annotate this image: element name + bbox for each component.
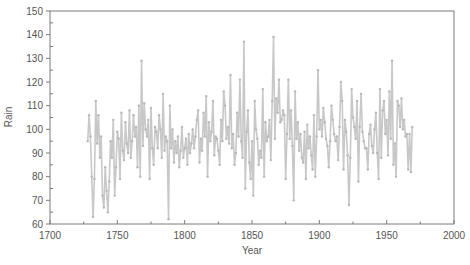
data-point-marker [115,166,117,168]
data-point-marker [99,157,101,159]
data-point-marker [131,140,133,142]
data-point-marker [325,138,327,140]
data-point-marker [352,116,354,118]
data-point-marker [148,178,150,180]
data-point-marker [307,147,309,149]
data-point-marker [303,131,305,133]
data-point-marker [138,104,140,106]
data-point-marker [338,126,340,128]
data-point-marker [97,114,99,116]
data-point-marker [163,149,165,151]
data-point-marker [396,100,398,102]
data-point-marker [256,138,258,140]
data-point-marker [188,133,190,135]
data-point-marker [318,128,320,130]
data-point-marker [349,157,351,159]
data-point-marker [185,138,187,140]
data-point-marker [361,131,363,133]
data-point-marker [205,95,207,97]
data-point-marker [295,138,297,140]
data-point-marker [240,140,242,142]
data-point-marker [165,135,167,137]
data-point-marker [271,100,273,102]
data-point-marker [201,149,203,151]
y-axis-ticks: 60708090100110120130140150 [26,6,53,230]
x-tick-label: 1750 [106,230,129,241]
data-point-marker [108,180,110,182]
data-point-marker [227,126,229,128]
data-point-marker [204,135,206,137]
data-point-marker [259,149,261,151]
data-point-marker [179,149,181,151]
data-point-marker [319,119,321,121]
data-point-marker [294,90,296,92]
data-point-marker [299,133,301,135]
data-point-marker [268,119,270,121]
data-point-marker [193,147,195,149]
data-point-marker [218,164,220,166]
data-point-marker [206,175,208,177]
data-point-marker [406,133,408,135]
data-point-marker [368,133,370,135]
data-point-marker [223,90,225,92]
data-point-marker [143,102,145,104]
data-point-marker [410,171,412,173]
data-point-marker [186,164,188,166]
data-point-marker [150,107,152,109]
data-point-marker [220,119,222,121]
data-point-marker [321,135,323,137]
data-point-marker [284,178,286,180]
y-tick-label: 140 [26,29,43,40]
data-point-marker [170,147,172,149]
data-point-marker [245,131,247,133]
data-point-marker [221,140,223,142]
y-tick-label: 80 [32,171,44,182]
data-point-marker [278,78,280,80]
data-point-marker [235,152,237,154]
data-point-marker [332,119,334,121]
data-point-marker [262,88,264,90]
data-point-marker [123,159,125,161]
data-point-marker [241,157,243,159]
data-point-marker [384,133,386,135]
data-point-marker [140,60,142,62]
data-point-marker [147,119,149,121]
data-point-marker [371,145,373,147]
y-axis-label: Rain [3,107,14,128]
data-point-marker [274,138,276,140]
data-point-marker [287,78,289,80]
data-point-marker [196,119,198,121]
data-point-marker [251,140,253,142]
data-point-marker [283,114,285,116]
data-point-marker [328,166,330,168]
data-point-marker [280,119,282,121]
data-point-marker [213,154,215,156]
data-point-marker [166,140,168,142]
data-point-marker [111,157,113,159]
data-point-marker [88,114,90,116]
data-point-marker [263,175,265,177]
data-point-marker [232,133,234,135]
data-point-marker [181,126,183,128]
y-tick-label: 110 [27,100,43,111]
data-point-marker [255,128,257,130]
data-point-marker [190,142,192,144]
data-point-marker [132,114,134,116]
data-point-marker [290,109,292,111]
data-point-marker [291,145,293,147]
data-point-marker [236,112,238,114]
data-point-marker [92,216,94,218]
x-axis-ticks: 1700175018001850190019502000 [39,220,466,241]
data-point-marker [109,140,111,142]
data-point-marker [104,166,106,168]
data-point-marker [334,140,336,142]
data-point-marker [117,138,119,140]
data-point-marker [407,168,409,170]
data-point-marker [100,135,102,137]
data-point-marker [171,128,173,130]
data-point-marker [189,152,191,154]
data-point-marker [275,97,277,99]
data-point-marker [128,109,130,111]
data-point-marker [157,147,159,149]
y-tick-label: 120 [26,77,43,88]
